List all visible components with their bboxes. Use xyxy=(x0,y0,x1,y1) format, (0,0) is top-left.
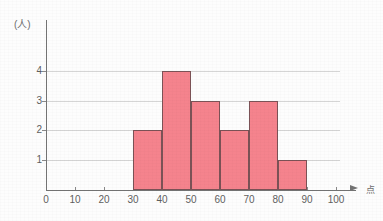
histogram-bar xyxy=(191,101,220,190)
x-tick-label: 0 xyxy=(34,194,58,205)
x-tick-label: 70 xyxy=(237,194,261,205)
y-tick-label-wrap: 3 xyxy=(24,95,42,107)
histogram-bar xyxy=(162,71,191,190)
x-tick-label: 40 xyxy=(150,194,174,205)
y-tick-label: 4 xyxy=(28,65,42,76)
x-tick-label: 80 xyxy=(266,194,290,205)
y-tick-label: 2 xyxy=(28,124,42,135)
x-tick-label: 100 xyxy=(324,194,348,205)
histogram-bar xyxy=(249,101,278,190)
y-tick-label: 3 xyxy=(28,95,42,106)
histogram-bar xyxy=(220,130,249,190)
x-tick-label: 50 xyxy=(179,194,203,205)
histogram-bar xyxy=(133,130,162,190)
x-tick-label: 10 xyxy=(63,194,87,205)
plot-area: 12340102030405060708090100 xyxy=(0,0,383,221)
x-tick-label: 20 xyxy=(92,194,116,205)
x-tick-label: 30 xyxy=(121,194,145,205)
x-tick-label: 60 xyxy=(208,194,232,205)
gridline-y-4 xyxy=(47,71,340,72)
histogram-bar xyxy=(278,160,307,190)
y-tick-label-wrap: 2 xyxy=(24,124,42,136)
y-tick-label: 1 xyxy=(28,154,42,165)
y-tick-label-wrap: 1 xyxy=(24,154,42,166)
x-tick-label: 90 xyxy=(295,194,319,205)
x-axis-line xyxy=(46,190,356,191)
x-axis-arrow-icon xyxy=(350,185,358,191)
y-tick-label-wrap: 4 xyxy=(24,65,42,77)
y-axis-line xyxy=(46,20,47,191)
histogram-figure: (人) 点 12340102030405060708090100 xyxy=(0,0,383,221)
